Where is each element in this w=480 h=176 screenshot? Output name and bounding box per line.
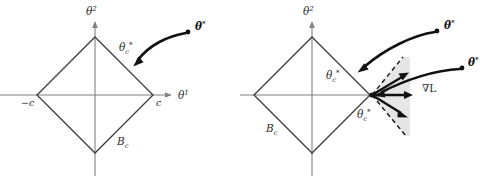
- left-pos-c-label: c: [156, 97, 162, 108]
- left-trajectory-arrowhead: [133, 56, 143, 66]
- figure-svg: θ1 θ2 −c c Bc θ* θc*: [0, 0, 480, 176]
- right-upper-theta-star-dot: [435, 29, 440, 34]
- left-neg-c-label: −c: [21, 97, 35, 108]
- right-lower-theta-star-label: θ*: [468, 55, 479, 68]
- right-lower-theta-c-label: θc*: [357, 108, 371, 123]
- left-theta-star-dot: [186, 30, 191, 35]
- right-ball-label: Bc: [265, 122, 278, 137]
- right-upper-theta-star-label: θ*: [444, 18, 455, 31]
- left-theta-c-label: θc*: [119, 41, 133, 56]
- left-trajectory-curve: [138, 33, 186, 60]
- right-gradient-label: ∇L: [422, 82, 436, 94]
- left-y-axis-label: θ2: [86, 5, 97, 17]
- right-vertex-dot: [369, 92, 374, 97]
- left-theta-star-label: θ*: [195, 19, 206, 32]
- left-ball-label: Bc: [116, 135, 129, 150]
- right-panel: θ2 Bc θ* θ* θc* θc* ∇L: [240, 5, 479, 176]
- right-y-axis-label: θ2: [303, 5, 314, 17]
- left-panel: θ1 θ2 −c c Bc θ* θc*: [0, 5, 206, 176]
- right-lower-theta-star-dot: [460, 66, 465, 71]
- figure-canvas: θ1 θ2 −c c Bc θ* θc*: [0, 0, 480, 176]
- right-upper-theta-c-label: θc*: [326, 69, 340, 84]
- left-x-axis-label: θ1: [178, 89, 189, 101]
